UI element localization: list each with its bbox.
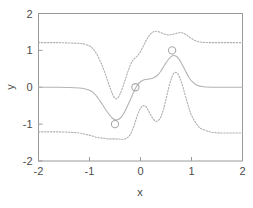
y-tick-label: -1 bbox=[23, 118, 33, 130]
x-tick-label: 0 bbox=[137, 165, 143, 177]
y-tick-label: -2 bbox=[23, 155, 33, 167]
x-tick-label: 1 bbox=[188, 165, 194, 177]
y-tick-label: 1 bbox=[26, 44, 32, 56]
x-tick-label: -2 bbox=[34, 165, 44, 177]
y-tick-label: 0 bbox=[26, 81, 32, 93]
y-tick-label: 2 bbox=[26, 8, 32, 20]
chart-figure: -2-1012 -2-1012 x y bbox=[0, 0, 253, 208]
y-axis-title: y bbox=[4, 84, 16, 90]
x-axis-title: x bbox=[137, 186, 143, 198]
x-tick-label: 2 bbox=[239, 165, 245, 177]
gaussian-process-plot: -2-1012 -2-1012 x y bbox=[0, 0, 253, 208]
x-tick-label: -1 bbox=[85, 165, 95, 177]
